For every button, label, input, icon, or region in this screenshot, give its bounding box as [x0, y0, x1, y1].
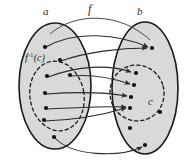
codomain-point [129, 95, 133, 99]
domain-point [42, 118, 46, 122]
codomain-point [132, 83, 136, 87]
codomain-point [128, 106, 132, 110]
codomain-point [143, 143, 147, 147]
preimage-label-argument: (c) [34, 52, 45, 63]
codomain-set-label: b [137, 6, 143, 17]
domain-point [52, 135, 56, 139]
function-label: f [88, 3, 91, 15]
codomain-point [128, 126, 132, 130]
set-mapping-diagram: a f b c f-1(c) [0, 0, 188, 166]
subset-c-label: c [148, 96, 153, 107]
preimage-label: f-1(c) [25, 52, 45, 63]
domain-point [45, 74, 49, 78]
domain-point [44, 106, 48, 110]
domain-set-label: a [43, 6, 49, 17]
codomain-point [158, 110, 162, 114]
codomain-point [150, 46, 154, 50]
domain-point [43, 91, 47, 95]
domain-point [68, 73, 72, 77]
codomain-set-oval [112, 22, 178, 154]
diagram-canvas [0, 0, 188, 166]
codomain-point [134, 71, 138, 75]
domain-point [58, 58, 62, 62]
domain-point [43, 45, 47, 49]
